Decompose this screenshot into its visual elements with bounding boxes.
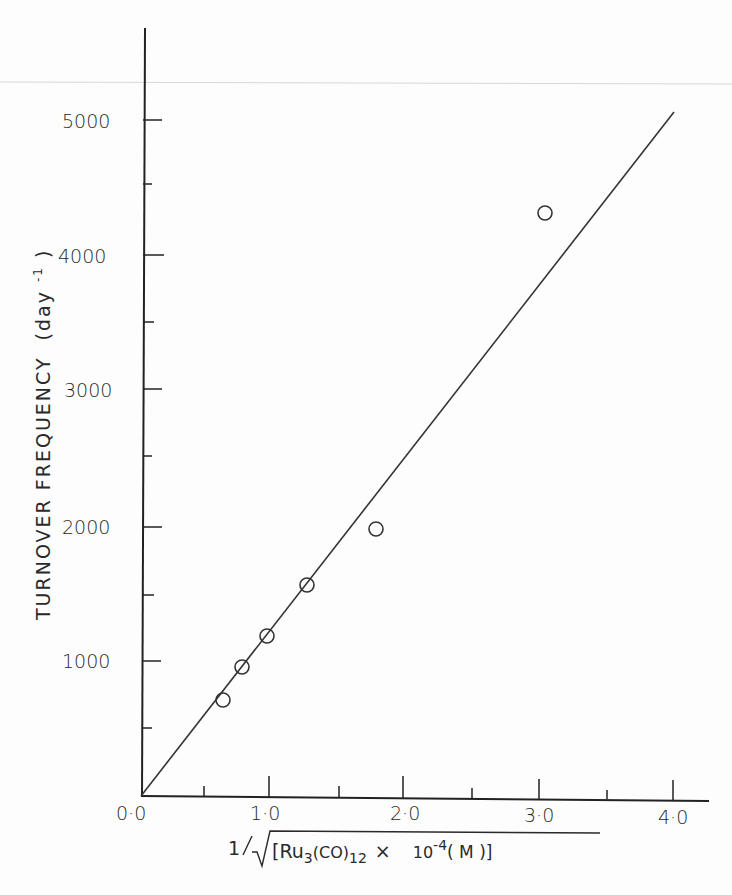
x-axis-title: 1 [Ru3(CO)12×10-4( M )] [228,831,600,866]
x-tick-3: 3·0 [524,804,554,826]
y-tick-5000: 5000 [62,110,110,132]
x-axis [141,776,709,801]
data-point [260,629,274,643]
svg-text:[Ru3(CO)12×10-4( M )]: [Ru3(CO)12×10-4( M )] [272,837,492,866]
x-tick-4: 4·0 [658,806,688,828]
data-point [216,693,230,707]
y-tick-3000: 3000 [64,379,112,401]
data-point [300,578,314,592]
y-axis-title: TURNOVER FREQUENCY (day -1 ) [24,249,54,621]
y-tick-4000: 4000 [58,245,106,267]
y-tick-1000: 1000 [62,650,110,672]
data-point [369,522,383,536]
x-tick-0: 0·0 [116,802,146,824]
chart: 5000 4000 3000 2000 1000 0·0 1·0 2·0 3·0… [0,0,732,895]
x-tick-2: 2·0 [390,802,420,824]
y-tick-2000: 2000 [62,516,110,538]
y-axis [142,28,164,797]
x-tick-1: 1·0 [250,802,280,824]
svg-text:TURNOVER FREQUENCY (day: TURNOVER FREQUENCY (day -1 ) [24,249,54,621]
svg-text:1: 1 [228,837,240,859]
scan-artifact-line [0,82,732,84]
data-points [216,206,552,707]
data-point [538,206,552,220]
